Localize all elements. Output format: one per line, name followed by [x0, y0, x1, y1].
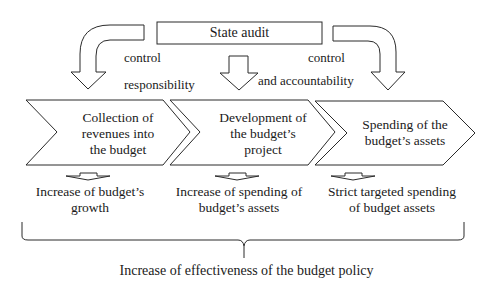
state-audit-label: State audit [157, 25, 322, 40]
small-down-arrow-icon-2 [215, 173, 259, 180]
grouping-brace [22, 222, 464, 258]
small-down-arrow-icon-3 [331, 173, 375, 180]
conclusion-label: Increase of effectiveness of the budget … [0, 263, 493, 279]
label-control-left: control [124, 50, 161, 65]
result-label-3: Strict targeted spending of budget asset… [322, 184, 462, 216]
stage-label-1: Collection of revenues into the budget [62, 110, 174, 158]
middle-down-arrow-icon [220, 56, 258, 90]
label-accountability: and accountability [258, 73, 354, 88]
small-down-arrow-icon-1 [66, 173, 110, 180]
label-responsibility: responsibility [124, 77, 195, 92]
stage-label-3: Spending of the budget’s assets [350, 117, 460, 149]
result-label-1: Increase of budget’s growth [28, 184, 152, 216]
result-label-2: Increase of spending of budget’s assets [172, 184, 306, 216]
stage-label-2: Development of the budget’s project [205, 110, 321, 158]
label-control-right: control [308, 50, 345, 65]
